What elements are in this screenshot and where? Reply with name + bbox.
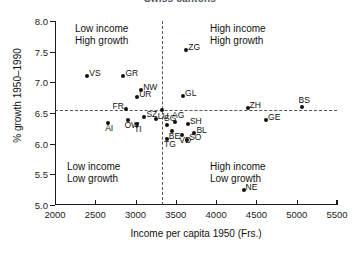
- data-point-sg[interactable]: SG: [165, 123, 169, 127]
- data-point-label: TI: [134, 125, 142, 134]
- data-point-gr[interactable]: GR: [121, 74, 125, 78]
- quadrant-label-line-1: High income: [210, 161, 266, 173]
- data-point-label: SO: [189, 133, 201, 142]
- x-axis-tick-label: 3000: [125, 209, 146, 220]
- quadrant-label-high-income-high-growth: High income High growth: [210, 23, 266, 47]
- quadrant-label-low-income-low-growth: Low income Low growth: [67, 161, 120, 185]
- quadrant-label-line-2: Low growth: [67, 173, 120, 185]
- x-axis-tick: [337, 200, 338, 205]
- quadrant-label-line-2: High growth: [75, 35, 128, 47]
- quadrant-label-line-1: Low income: [75, 23, 128, 35]
- y-axis-tick-label: 6.5: [35, 108, 48, 119]
- data-point-ai[interactable]: AI: [106, 121, 110, 125]
- x-axis-title: Income per capita 1950 (Frs.): [55, 228, 337, 239]
- y-axis-line: [55, 21, 56, 205]
- data-point-label: GE: [268, 113, 280, 122]
- data-point-label: AG: [172, 111, 184, 120]
- data-point-ag[interactable]: AG: [173, 120, 177, 124]
- chart-title: Swiss cantons: [0, 0, 360, 2]
- x-axis-tick-label: 2500: [85, 209, 106, 220]
- y-axis-tick-label: 8.0: [35, 16, 48, 27]
- x-axis-tick: [256, 200, 257, 205]
- data-point-label: AI: [105, 124, 113, 133]
- y-axis-tick-label: 7.5: [35, 46, 48, 57]
- data-point-sh[interactable]: SH: [186, 122, 190, 126]
- data-point-zg[interactable]: ZG: [184, 48, 188, 52]
- data-point-tg[interactable]: TG: [165, 137, 169, 141]
- data-point-label: TG: [164, 140, 176, 149]
- data-point-label: GL: [185, 89, 196, 98]
- quadrant-label-line-1: Low income: [67, 161, 120, 173]
- data-point-ge[interactable]: GE: [264, 118, 268, 122]
- y-axis-tick: [50, 174, 55, 175]
- x-axis-tick-label: 3500: [165, 209, 186, 220]
- quadrant-label-high-income-low-growth: High income Low growth: [210, 161, 266, 185]
- x-axis-tick: [297, 200, 298, 205]
- data-point-label: GR: [125, 69, 138, 78]
- x-axis-tick-label: 5500: [326, 209, 347, 220]
- data-point-vd[interactable]: VD: [180, 133, 184, 137]
- quadrant-label-line-2: High growth: [210, 35, 266, 47]
- data-point-ti[interactable]: TI: [135, 122, 139, 126]
- data-point-lu[interactable]: LU: [154, 117, 158, 121]
- data-point-gl[interactable]: GL: [181, 94, 185, 98]
- y-axis-tick: [50, 52, 55, 53]
- data-point-label: FR: [113, 102, 124, 111]
- x-axis-tick: [216, 200, 217, 205]
- data-point-label: ZH: [250, 101, 261, 110]
- y-axis-tick: [50, 144, 55, 145]
- quadrant-label-low-income-high-growth: Low income High growth: [75, 23, 128, 47]
- data-point-fr[interactable]: FR: [124, 107, 128, 111]
- data-point-ow[interactable]: OW: [126, 118, 130, 122]
- y-axis-tick-label: 5.5: [35, 169, 48, 180]
- x-axis-tick: [55, 200, 56, 205]
- data-point-sz[interactable]: SZ: [142, 115, 146, 119]
- data-point-zh[interactable]: ZH: [246, 106, 250, 110]
- y-axis-tick: [50, 205, 55, 206]
- y-axis-tick: [50, 82, 55, 83]
- x-axis-tick: [95, 200, 96, 205]
- x-axis-tick: [136, 200, 137, 205]
- y-axis-title: % growth 1950–1990: [12, 26, 23, 166]
- scatter-plot-figure: Swiss cantons 8.07.57.06.56.05.55.0 2000…: [0, 0, 360, 254]
- y-axis-tick-label: 7.0: [35, 77, 48, 88]
- y-axis-tick: [50, 21, 55, 22]
- x-axis-line: [55, 204, 337, 205]
- data-point-label: VS: [89, 69, 100, 78]
- plot-area: 8.07.57.06.56.05.55.0 200025003000350040…: [55, 21, 337, 205]
- x-axis-tick-label: 2000: [44, 209, 65, 220]
- median-growth-reference-line: [55, 110, 337, 111]
- data-point-be[interactable]: BE: [170, 129, 174, 133]
- data-point-label: UR: [139, 90, 151, 99]
- quadrant-label-line-1: High income: [210, 23, 266, 35]
- quadrant-label-line-2: Low growth: [210, 173, 266, 185]
- x-axis-tick-label: 5000: [286, 209, 307, 220]
- x-axis-tick-label: 4000: [206, 209, 227, 220]
- data-point-ne[interactable]: NE: [242, 188, 246, 192]
- x-axis-tick-label: 4500: [246, 209, 267, 220]
- data-point-label: ZG: [188, 43, 200, 52]
- data-point-label: BS: [299, 96, 310, 105]
- data-point-vs[interactable]: VS: [85, 74, 89, 78]
- y-axis-tick-label: 6.0: [35, 138, 48, 149]
- data-point-ur[interactable]: UR: [135, 95, 139, 99]
- x-axis-tick: [176, 200, 177, 205]
- y-axis-tick: [50, 113, 55, 114]
- data-point-bs[interactable]: BS: [300, 105, 304, 109]
- data-point-so[interactable]: SO: [185, 138, 189, 142]
